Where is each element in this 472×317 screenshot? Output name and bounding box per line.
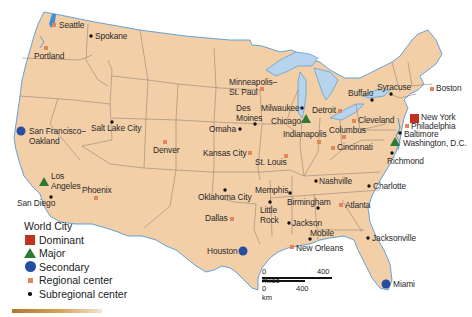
marker-miami[interactable] — [382, 280, 391, 289]
label-dallas: Dallas — [205, 214, 228, 223]
marker-philadelphia[interactable] — [405, 124, 409, 128]
label-detroit: Detroit — [312, 106, 336, 115]
label-washington: Washington, D.C. — [403, 139, 467, 148]
legend-label: Dominant — [39, 234, 84, 246]
label-houston: Houston — [207, 247, 238, 256]
marker-syracuse[interactable] — [389, 92, 392, 95]
legend-item-subregional: Subregional center — [24, 287, 127, 301]
label-san-francisco-1: San Francisco– — [29, 127, 86, 136]
label-portland: Portland — [34, 52, 64, 61]
marker-buffalo[interactable] — [370, 98, 373, 101]
label-new-orleans: New Orleans — [296, 244, 343, 253]
scale-miles-label: 0 miles — [262, 267, 280, 285]
marker-houston[interactable] — [239, 247, 248, 256]
label-jackson: Jackson — [292, 219, 322, 228]
marker-nashville[interactable] — [314, 179, 317, 182]
label-spokane: Spokane — [95, 32, 127, 41]
marker-cleveland[interactable] — [352, 119, 356, 123]
label-nashville: Nashville — [319, 177, 352, 186]
marker-little-rock[interactable] — [268, 200, 271, 203]
marker-dallas[interactable] — [230, 217, 234, 221]
label-phoenix: Phoenix — [82, 186, 112, 195]
legend-label: Secondary — [39, 261, 89, 273]
marker-seattle[interactable] — [52, 23, 56, 27]
legend-label: Subregional center — [39, 288, 127, 300]
marker-memphis[interactable] — [288, 191, 291, 194]
marker-san-francisco[interactable] — [17, 127, 26, 136]
green-triangle-icon — [24, 247, 36, 259]
blue-circle-icon — [24, 261, 36, 273]
orange-square-icon — [24, 274, 36, 286]
label-salt-lake-city: Salt Lake City — [91, 124, 141, 133]
label-minneapolis-1: Minneapolis– — [229, 78, 277, 87]
label-columbus: Columbus — [329, 126, 366, 135]
scale-miles-value: 400 — [317, 267, 330, 276]
label-jacksonville: Jacksonville — [372, 234, 416, 243]
label-seattle: Seattle — [59, 21, 84, 30]
label-des-moines-1: Des — [236, 104, 251, 113]
marker-spokane[interactable] — [89, 34, 92, 37]
label-omaha: Omaha — [209, 125, 236, 134]
marker-boston[interactable] — [430, 87, 434, 91]
label-atlanta: Atlanta — [345, 201, 370, 210]
label-boston: Boston — [436, 84, 461, 93]
marker-charlotte[interactable] — [367, 184, 370, 187]
marker-denver[interactable] — [163, 140, 167, 144]
label-buffalo: Buffalo — [348, 89, 373, 98]
legend: World City Dominant Major Secondary Regi… — [24, 220, 127, 301]
scale-miles-bar — [262, 277, 332, 279]
label-san-diego: San Diego — [17, 199, 55, 208]
marker-minneapolis[interactable] — [260, 87, 264, 91]
marker-kansas-city[interactable] — [248, 151, 252, 155]
label-cincinnati: Cincinnati — [337, 143, 373, 152]
label-cleveland: Cleveland — [358, 116, 394, 125]
black-dot-icon — [24, 288, 36, 300]
marker-baltimore[interactable] — [398, 131, 401, 134]
scale-km-bar — [262, 280, 305, 282]
label-little-rock-2: Rock — [260, 216, 279, 225]
label-memphis: Memphis — [255, 186, 288, 195]
label-st-louis: St. Louis — [255, 158, 287, 167]
scale-km-label: 0 km — [262, 284, 272, 302]
scale-km-value: 400 — [296, 284, 309, 293]
legend-item-secondary: Secondary — [24, 260, 127, 274]
marker-detroit[interactable] — [338, 109, 342, 113]
legend-item-major: Major — [24, 247, 127, 261]
decorative-gradient-bar — [12, 309, 102, 313]
marker-richmond[interactable] — [390, 151, 393, 154]
legend-label: Regional center — [39, 274, 113, 286]
label-los-angeles-1: Los — [51, 172, 64, 181]
marker-milwaukee[interactable] — [300, 106, 303, 109]
marker-jackson[interactable] — [287, 221, 290, 224]
label-syracuse: Syracuse — [377, 83, 411, 92]
marker-new-orleans[interactable] — [290, 245, 294, 249]
label-minneapolis-2: St. Paul — [229, 88, 258, 97]
marker-cincinnati[interactable] — [331, 146, 335, 150]
label-little-rock-1: Little — [260, 206, 277, 215]
marker-atlanta[interactable] — [339, 203, 343, 207]
legend-label: Major — [39, 247, 65, 259]
label-kansas-city: Kansas City — [203, 149, 247, 158]
legend-title: World City — [24, 220, 127, 232]
label-chicago: Chicago — [271, 117, 301, 126]
label-mobile: Mobile — [310, 229, 334, 238]
marker-jacksonville[interactable] — [366, 236, 369, 239]
label-milwaukee: Milwaukee — [261, 104, 300, 113]
marker-portland[interactable] — [44, 46, 48, 50]
marker-indianapolis[interactable] — [317, 140, 321, 144]
label-san-francisco-2: Oakland — [29, 137, 60, 146]
label-miami: Miami — [393, 280, 415, 289]
legend-item-regional: Regional center — [24, 274, 127, 288]
red-square-icon — [24, 234, 36, 246]
label-oklahoma-city: Oklahoma City — [198, 193, 252, 202]
legend-item-dominant: Dominant — [24, 233, 127, 247]
label-richmond: Richmond — [387, 157, 424, 166]
marker-phoenix[interactable] — [94, 196, 98, 200]
marker-columbus[interactable] — [342, 135, 346, 139]
label-des-moines-2: Moines — [236, 114, 262, 123]
marker-omaha[interactable] — [238, 127, 241, 130]
label-los-angeles-2: Angeles — [51, 182, 81, 191]
label-denver: Denver — [153, 146, 179, 155]
label-indianapolis: Indianapolis — [283, 130, 327, 139]
label-charlotte: Charlotte — [373, 182, 406, 191]
